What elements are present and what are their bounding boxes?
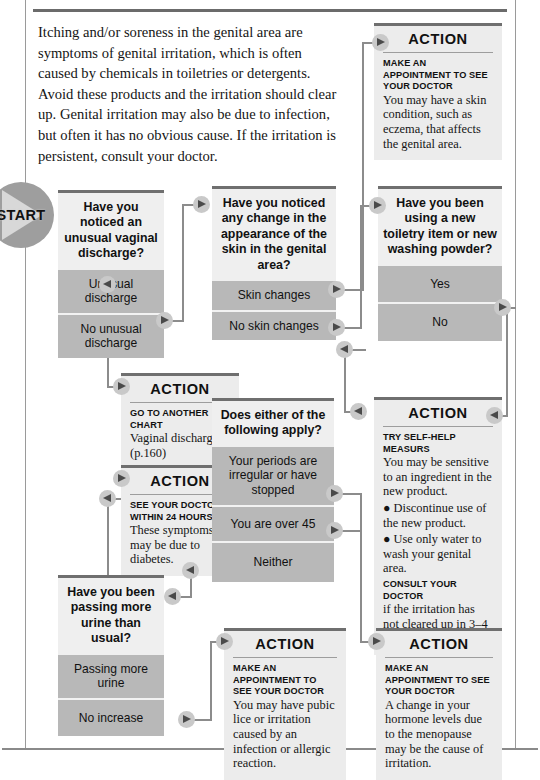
connector-yes-v <box>506 307 508 417</box>
action-card: ACTION TRY SELF-HELP MEASURS You may be … <box>374 400 502 655</box>
option-no[interactable]: No <box>378 302 502 341</box>
action-divider <box>233 657 337 658</box>
action-box-pubic-lice: ACTION MAKE AN APPOINTMENT TO SEE YOUR D… <box>224 628 346 780</box>
option-no-increase[interactable]: No increase <box>58 698 164 737</box>
action-title: ACTION <box>374 26 502 51</box>
action-box-skin-condition: ACTION MAKE AN APPOINTMENT TO SEE YOUR D… <box>374 23 502 160</box>
action-divider <box>383 52 493 53</box>
action-bullet-2: ● Use only water to wash your genital ar… <box>383 532 493 576</box>
right-margin-line <box>515 0 516 748</box>
question-box-vaginal-discharge: Have you noticed an unusual vaginal disc… <box>58 190 164 358</box>
option-no-skin-changes[interactable]: No skin changes <box>212 310 336 341</box>
arrow-icon-to-diabetes-action <box>113 470 130 487</box>
action-bullet-1: ● Discontinue use of the new product. <box>383 501 493 530</box>
action-box-self-help: ACTION TRY SELF-HELP MEASURS You may be … <box>374 397 502 655</box>
arrow-icon-neither-out <box>182 562 199 579</box>
action-lead: MAKE AN APPOINTMENT TO SEE YOUR DOCTOR <box>385 663 493 698</box>
arrow-icon-to-menopause-action <box>368 633 385 650</box>
arrow-icon-to-toiletry-question <box>369 197 386 214</box>
action-body: TRY SELF-HELP MEASURS You may be sensiti… <box>374 432 502 655</box>
connector-periods-v <box>360 493 362 643</box>
arrow-icon-passing-urine-out <box>99 490 116 507</box>
connector-skinchanges-v <box>362 42 364 291</box>
action-body: MAKE AN APPOINTMENT TO SEE YOUR DOCTOR Y… <box>224 663 346 780</box>
action-lead: MAKE AN APPOINTMENT TO SEE YOUR DOCTOR <box>383 58 493 93</box>
arrow-icon-to-lice-action <box>216 633 233 650</box>
connector-noincrease-v <box>210 641 212 721</box>
action-lead-2: CONSULT YOUR DOCTOR <box>383 579 493 602</box>
connector-nodischarge-v <box>182 204 184 322</box>
option-list: Passing more urine No increase <box>58 655 164 737</box>
arrow-icon-to-self-help-action <box>486 407 503 424</box>
arrow-icon-skin-changes-out <box>328 281 345 298</box>
action-title: ACTION <box>224 631 346 656</box>
action-card: ACTION MAKE AN APPOINTMENT TO SEE YOUR D… <box>224 631 346 780</box>
arrow-icon-to-skin-action <box>372 34 389 51</box>
option-list: Yes No <box>378 266 502 341</box>
question-text: Does either of the following apply? <box>212 401 334 447</box>
action-text: You may be sensitive to an ingredient in… <box>383 455 493 499</box>
question-box-passing-urine: Have you been passing more urine than us… <box>58 575 164 736</box>
connector-noskin-v <box>360 205 362 329</box>
arrow-icon-to-skin-question <box>193 196 210 213</box>
start-label: START <box>0 182 54 248</box>
arrow-icon-unusual-discharge-out <box>99 276 116 293</box>
question-text: Have you noticed an unusual vaginal disc… <box>58 193 164 270</box>
action-card: ACTION MAKE AN APPOINTMENT TO SEE YOUR D… <box>374 26 502 160</box>
question-box-either-applies: Does either of the following apply? Your… <box>212 398 334 582</box>
arrow-icon-to-urine-question <box>164 588 181 605</box>
action-title: ACTION <box>374 400 502 425</box>
connector-no-v <box>344 349 346 411</box>
question-text: Have you been passing more urine than us… <box>58 578 164 655</box>
option-no-unusual-discharge[interactable]: No unusual discharge <box>58 313 164 358</box>
start-badge: START <box>0 182 54 248</box>
option-yes[interactable]: Yes <box>378 266 502 303</box>
action-text: You may have a skin condition, such as e… <box>383 93 493 151</box>
arrow-icon-to-another-chart <box>113 378 130 395</box>
left-margin-line <box>25 0 26 748</box>
action-divider <box>385 657 493 658</box>
top-rule <box>33 9 507 12</box>
option-over-45[interactable]: You are over 45 <box>212 505 334 542</box>
option-neither[interactable]: Neither <box>212 541 334 582</box>
arrow-icon-periods-out <box>326 485 343 502</box>
option-list: Your periods are irregular or have stopp… <box>212 447 334 582</box>
action-lead: TRY SELF-HELP MEASURS <box>383 432 493 455</box>
action-box-menopause: ACTION MAKE AN APPOINTMENT TO SEE YOUR D… <box>376 628 502 780</box>
option-skin-changes[interactable]: Skin changes <box>212 281 336 310</box>
action-card: ACTION MAKE AN APPOINTMENT TO SEE YOUR D… <box>376 631 502 780</box>
action-divider <box>383 426 493 427</box>
question-text: Have you been using a new toiletry item … <box>378 189 502 266</box>
action-body: MAKE AN APPOINTMENT TO SEE YOUR DOCTOR A… <box>376 663 502 780</box>
arrow-icon-yes-out <box>494 299 511 316</box>
option-periods-irregular[interactable]: Your periods are irregular or have stopp… <box>212 447 334 505</box>
arrow-icon-over45-out <box>326 522 343 539</box>
action-text: A change in your hormone levels due to t… <box>385 698 493 771</box>
arrow-icon-no-out <box>336 341 353 358</box>
option-passing-more-urine[interactable]: Passing more urine <box>58 655 164 698</box>
action-body: MAKE AN APPOINTMENT TO SEE YOUR DOCTOR Y… <box>374 58 502 160</box>
arrow-icon-no-skin-changes-out <box>328 319 345 336</box>
arrow-icon-no-increase-out <box>178 711 195 728</box>
action-title: ACTION <box>376 631 502 656</box>
question-text: Have you noticed any change in the appea… <box>212 189 336 281</box>
intro-paragraph: Itching and/or soreness in the genital a… <box>38 22 338 166</box>
action-text: You may have pubic lice or irritation ca… <box>233 698 337 771</box>
option-list: Skin changes No skin changes <box>212 281 336 340</box>
action-lead: MAKE AN APPOINTMENT TO SEE YOUR DOCTOR <box>233 663 337 698</box>
arrow-icon-to-either-question <box>350 403 367 420</box>
question-box-new-toiletry: Have you been using a new toiletry item … <box>378 186 502 341</box>
question-box-skin-appearance: Have you noticed any change in the appea… <box>212 186 336 340</box>
arrow-icon-no-discharge-out <box>156 312 173 329</box>
